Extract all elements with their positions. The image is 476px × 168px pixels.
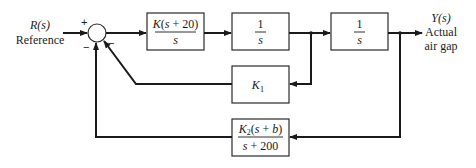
sign-plus: +: [81, 16, 87, 28]
block-diagram: R(s) Reference + − − K(s + 20) s 1 s 1 s…: [0, 0, 476, 168]
k2-block: K2(s + b) s + 200: [232, 119, 289, 156]
output-label-line2: air gap: [425, 39, 458, 53]
integrator1-numerator: 1: [258, 17, 264, 31]
input-signal-label: R(s): [29, 18, 50, 32]
controller-block: K(s + 20) s: [147, 13, 204, 50]
k2-numerator: K2(s + b): [238, 122, 282, 137]
controller-denominator: s: [173, 33, 178, 47]
inner-feedback-wire-in: [290, 33, 311, 84]
integrator2-denominator: s: [357, 33, 362, 47]
integrator2-numerator: 1: [357, 17, 363, 31]
input-reference-label: Reference: [16, 33, 65, 47]
summing-junction: [88, 24, 106, 42]
output-signal-label: Y(s): [431, 11, 450, 25]
k2-denominator: s + 200: [243, 139, 278, 153]
sign-minus-outer: −: [83, 41, 89, 53]
k1-block: K1: [232, 66, 289, 103]
integrator1-block: 1 s: [232, 13, 289, 50]
output-label-line1: Actual: [425, 25, 458, 39]
integrator1-denominator: s: [258, 33, 263, 47]
controller-numerator: K(s + 20): [152, 17, 198, 31]
integrator2-block: 1 s: [331, 13, 388, 50]
